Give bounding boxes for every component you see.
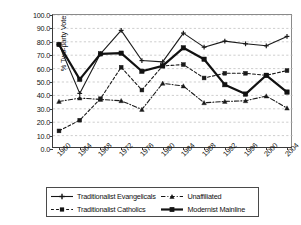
data-point-marker xyxy=(243,92,247,96)
y-tick-label: 10.0 xyxy=(37,131,50,140)
data-point-marker xyxy=(140,88,144,92)
chart-figure: % Two-party Vote 0.010.020.030.040.050.0… xyxy=(0,0,301,225)
series-line xyxy=(59,44,287,94)
y-tick-label: 0.0 xyxy=(41,145,50,154)
legend-label: Modernist Mainline xyxy=(187,205,245,214)
data-point-marker xyxy=(57,129,61,133)
data-point-marker xyxy=(264,73,268,77)
legend-label: Traditionalist Catholics xyxy=(77,205,145,214)
data-point-marker xyxy=(98,52,102,56)
series-line xyxy=(59,65,287,131)
data-point-marker xyxy=(202,76,206,80)
data-point-marker xyxy=(244,71,248,75)
legend-item-modernist-mainline[interactable]: Modernist Mainline xyxy=(160,203,255,216)
y-tick-label: 60.0 xyxy=(37,64,50,73)
data-point-marker xyxy=(78,77,82,81)
data-point-marker xyxy=(223,71,227,75)
series-3 xyxy=(57,42,289,96)
plot-area: % Two-party Vote 0.010.020.030.040.050.0… xyxy=(52,14,292,148)
data-point-marker xyxy=(181,46,185,50)
legend-label: Unaffiliated xyxy=(187,192,221,201)
y-tick-label: 80.0 xyxy=(37,37,50,46)
y-tick-mark xyxy=(50,149,53,150)
legend-row: Traditionalist Catholics Modernist Mainl… xyxy=(50,203,255,216)
y-tick-label: 100.0 xyxy=(33,11,50,20)
data-point-marker xyxy=(181,63,185,67)
legend-swatch-square-solid-icon xyxy=(160,204,184,215)
y-tick-label: 50.0 xyxy=(37,78,50,87)
legend-swatch-square-dashed-icon xyxy=(50,204,74,215)
legend-item-unaffiliated[interactable]: Unaffiliated xyxy=(160,190,255,203)
y-tick-label: 90.0 xyxy=(37,24,50,33)
data-point-marker xyxy=(57,42,61,46)
y-tick-label: 70.0 xyxy=(37,51,50,60)
y-tick-label: 20.0 xyxy=(37,118,50,127)
legend-item-traditionalist-evangelicals[interactable]: Traditionalist Evangelicals xyxy=(50,190,160,203)
data-point-marker xyxy=(223,82,227,86)
data-point-marker xyxy=(285,90,289,94)
data-point-marker xyxy=(160,64,164,68)
data-point-marker xyxy=(119,51,123,55)
data-point-marker xyxy=(285,69,289,73)
y-tick-label: 30.0 xyxy=(37,104,50,113)
data-point-marker xyxy=(78,118,82,122)
chart-legend: Traditionalist Evangelicals Unaffiliated… xyxy=(46,187,259,217)
legend-swatch-plus-icon xyxy=(50,191,74,202)
legend-label: Traditionalist Evangelicals xyxy=(77,192,156,201)
data-point-marker xyxy=(119,65,123,69)
legend-marker xyxy=(60,207,64,211)
data-point-marker xyxy=(202,57,206,61)
data-point-marker xyxy=(285,106,290,110)
legend-marker xyxy=(170,207,175,212)
legend-swatch-triangle-icon xyxy=(160,191,184,202)
y-tick-label: 40.0 xyxy=(37,91,50,100)
data-point-marker xyxy=(140,69,144,73)
legend-item-traditionalist-catholics[interactable]: Traditionalist Catholics xyxy=(50,203,160,216)
series-canvas xyxy=(53,15,293,149)
legend-row: Traditionalist Evangelicals Unaffiliated xyxy=(50,190,255,203)
